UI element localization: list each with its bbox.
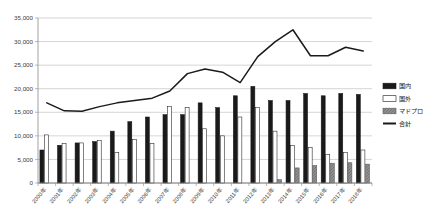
total-line bbox=[47, 30, 363, 112]
x-axis-tick-label: 2000年 bbox=[30, 186, 48, 205]
legend-item: 合計 bbox=[383, 120, 411, 128]
bar-国内 bbox=[110, 131, 114, 183]
bar-国外 bbox=[97, 141, 101, 183]
bar-国内 bbox=[251, 86, 255, 183]
x-axis-tick-label: 2011年 bbox=[224, 186, 242, 205]
bar-国内 bbox=[216, 108, 220, 183]
bar-マドプロ bbox=[348, 163, 352, 183]
legend-label: 合計 bbox=[399, 120, 411, 128]
y-axis-tick-label: 20,000 bbox=[14, 85, 33, 92]
bar-国外 bbox=[150, 143, 154, 183]
bar-国外 bbox=[185, 108, 189, 183]
bar-国外 bbox=[45, 135, 49, 183]
legend-swatch-box bbox=[383, 96, 396, 102]
x-axis-tick-label: 2018年 bbox=[346, 186, 364, 205]
line-series-layer bbox=[47, 30, 363, 112]
y-axis-tick-label: 15,000 bbox=[14, 108, 33, 115]
bar-国外 bbox=[291, 145, 295, 183]
legend-label: 国外 bbox=[399, 95, 411, 103]
x-axis-tick-label: 2006年 bbox=[135, 186, 153, 205]
x-axis-tick-label: 2013年 bbox=[259, 186, 277, 205]
bar-マドプロ bbox=[313, 166, 317, 183]
bar-国外 bbox=[115, 152, 119, 183]
bar-国内 bbox=[40, 150, 44, 183]
bar-国内 bbox=[181, 115, 185, 183]
bar-国内 bbox=[93, 142, 97, 183]
x-axis-tick-label: 2005年 bbox=[118, 186, 136, 205]
legend-swatch-box bbox=[383, 108, 396, 114]
y-axis-tick-label: 0 bbox=[30, 179, 34, 186]
legend-item: 国外 bbox=[383, 95, 411, 103]
bar-国内 bbox=[286, 101, 290, 184]
bar-series-layer bbox=[40, 86, 370, 183]
bar-国外 bbox=[255, 108, 259, 183]
bar-国内 bbox=[304, 93, 308, 183]
bar-マドプロ bbox=[366, 164, 370, 183]
bar-国内 bbox=[145, 117, 149, 183]
legend-item: マドプロ bbox=[383, 107, 423, 114]
bar-国外 bbox=[220, 136, 224, 183]
x-axis-tick-label: 2008年 bbox=[171, 186, 189, 205]
y-axis-tick-label: 35,000 bbox=[14, 14, 33, 21]
bar-マドプロ bbox=[330, 163, 334, 183]
x-axis-tick-label: 2012年 bbox=[241, 186, 259, 205]
bar-国外 bbox=[308, 148, 312, 183]
bar-国外 bbox=[273, 131, 277, 183]
bar-国内 bbox=[128, 122, 132, 183]
bar-国内 bbox=[58, 145, 62, 183]
bar-国内 bbox=[163, 115, 167, 183]
bar-国内 bbox=[268, 101, 272, 184]
legend-swatch-box bbox=[383, 83, 396, 89]
bar-国外 bbox=[238, 117, 242, 183]
x-axis-tick-label: 2017年 bbox=[329, 186, 347, 205]
legend-label: マドプロ bbox=[399, 107, 423, 114]
bar-国外 bbox=[62, 143, 66, 183]
bar-国外 bbox=[326, 155, 330, 183]
bar-国内 bbox=[198, 103, 202, 183]
x-axis-tick-label: 2010年 bbox=[206, 186, 224, 205]
y-axis-tick-labels: 35,00030,00025,00020,00015,00010,0005,00… bbox=[14, 14, 38, 186]
x-axis-tick-label: 2009年 bbox=[188, 186, 206, 205]
y-axis-tick-label: 5,000 bbox=[18, 156, 34, 163]
chart-container: 35,00030,00025,00020,00015,00010,0005,00… bbox=[0, 0, 446, 214]
bar-国内 bbox=[75, 143, 79, 183]
bar-国内 bbox=[339, 93, 343, 183]
x-axis-tick-label: 2016年 bbox=[311, 186, 329, 205]
bar-国内 bbox=[321, 96, 325, 183]
legend-label: 国内 bbox=[399, 82, 411, 90]
x-axis-tick-label: 2004年 bbox=[100, 186, 118, 205]
x-axis-tick-label: 2014年 bbox=[276, 186, 294, 205]
y-axis-tick-label: 25,000 bbox=[14, 61, 33, 68]
bar-国外 bbox=[361, 150, 365, 183]
bar-マドプロ bbox=[278, 180, 282, 183]
legend-item: 国内 bbox=[383, 82, 411, 90]
x-axis-tick-label: 2002年 bbox=[65, 186, 83, 205]
chart-legend: 国内国外マドプロ合計 bbox=[383, 82, 423, 128]
y-axis-tick-label: 30,000 bbox=[14, 38, 33, 45]
bar-国外 bbox=[343, 152, 347, 183]
bar-国内 bbox=[356, 94, 360, 183]
bar-マドプロ bbox=[295, 168, 299, 183]
x-axis-tick-labels: 2000年2001年2002年2003年2004年2005年2006年2007年… bbox=[30, 186, 365, 205]
bar-国内 bbox=[233, 96, 237, 183]
x-axis-tick-label: 2001年 bbox=[48, 186, 66, 205]
combo-chart: 35,00030,00025,00020,00015,00010,0005,00… bbox=[0, 0, 446, 214]
bar-国外 bbox=[168, 107, 172, 183]
y-axis-tick-label: 10,000 bbox=[14, 132, 33, 139]
x-axis-tick-label: 2007年 bbox=[153, 186, 171, 205]
bar-国外 bbox=[132, 140, 136, 183]
x-axis-tick-label: 2003年 bbox=[83, 186, 101, 205]
bar-国外 bbox=[80, 143, 84, 183]
x-axis-tick-label: 2015年 bbox=[294, 186, 312, 205]
bar-国外 bbox=[203, 129, 207, 183]
